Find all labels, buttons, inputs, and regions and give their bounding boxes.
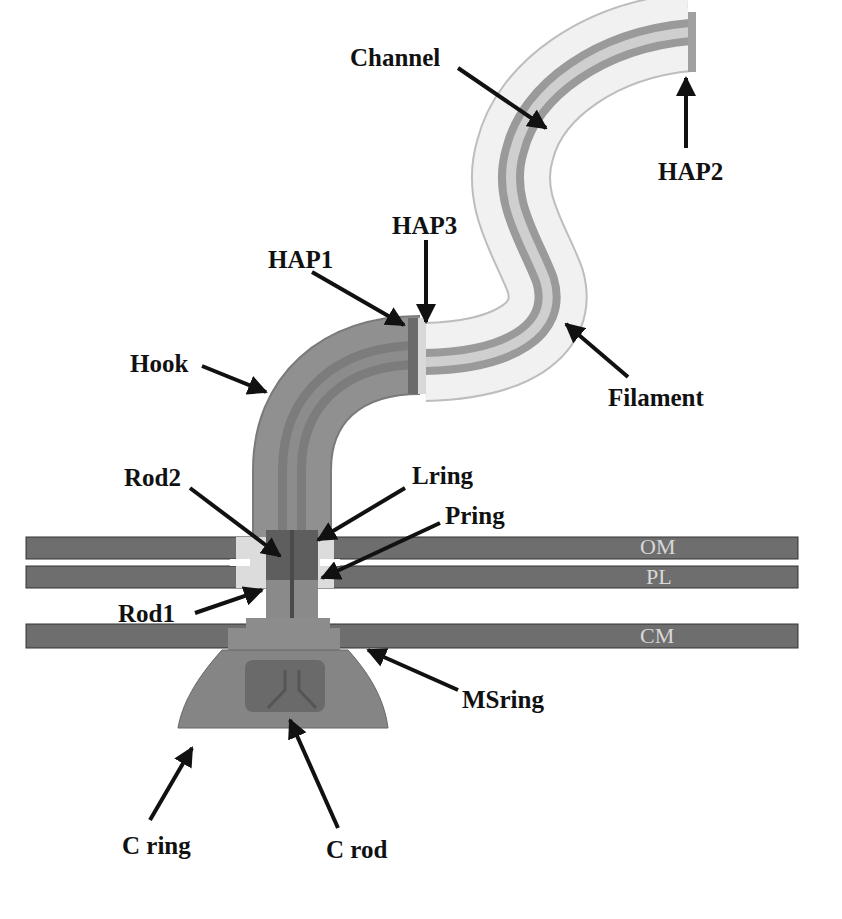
cytoplasmic-membrane: [26, 624, 798, 648]
label-hap2: HAP2: [658, 158, 723, 185]
cring-arrow: [150, 748, 192, 820]
label-crod: C rod: [326, 836, 387, 863]
hap2-cap: [688, 12, 696, 72]
pl-label: PL: [646, 564, 672, 589]
flagellum-diagram: OM PL CM Channel HAP2 HAP3 HAP1 Hook Fil…: [0, 0, 842, 919]
label-hap1: HAP1: [268, 246, 333, 273]
msring-arrow: [368, 650, 458, 690]
label-rod2: Rod2: [124, 464, 181, 491]
label-hap3: HAP3: [392, 212, 457, 239]
hap1-arrow: [312, 272, 404, 325]
filament-arrow: [566, 324, 628, 377]
outer-membrane: [26, 537, 798, 559]
hook-arrow: [202, 366, 266, 392]
label-msring: MSring: [462, 686, 544, 713]
rod1-arrow: [195, 590, 262, 613]
label-lring: Lring: [412, 462, 474, 489]
label-hook: Hook: [130, 350, 188, 377]
label-pring: Pring: [445, 502, 505, 529]
hook: [292, 318, 426, 545]
om-label: OM: [640, 534, 675, 559]
membranes: [26, 537, 798, 648]
cm-label: CM: [640, 623, 674, 648]
filament: [425, 12, 696, 362]
peptidoglycan-layer: [26, 566, 798, 588]
label-cring: C ring: [122, 832, 191, 859]
c-ring: [178, 650, 388, 728]
label-channel: Channel: [350, 44, 440, 71]
label-rod1: Rod1: [118, 600, 175, 627]
hap1-band: [408, 318, 418, 394]
label-filament: Filament: [608, 384, 704, 411]
ms-ring: [228, 618, 340, 650]
hap3-band: [418, 318, 426, 394]
crod-arrow: [290, 720, 338, 828]
